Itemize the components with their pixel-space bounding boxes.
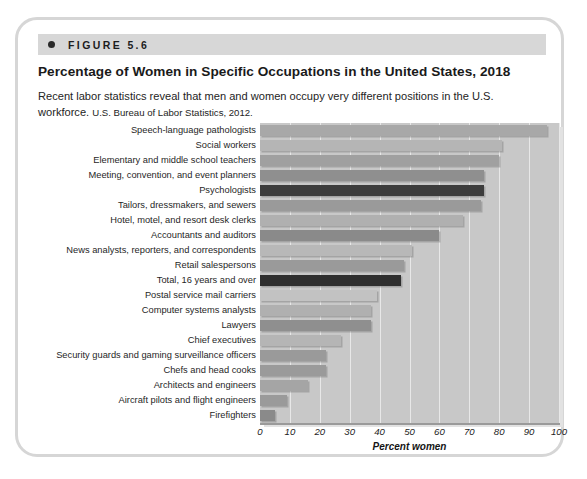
category-label: Architects and engineers xyxy=(154,380,256,391)
bar-row[interactable] xyxy=(260,198,559,213)
category-label: Meeting, convention, and event planners xyxy=(89,170,256,181)
bar-row[interactable] xyxy=(260,333,559,348)
x-axis-line xyxy=(260,423,560,425)
x-tick-label: 30 xyxy=(344,426,355,437)
bar-row[interactable] xyxy=(260,138,559,153)
x-tick-label: 70 xyxy=(464,426,475,437)
bar-row[interactable] xyxy=(260,153,559,168)
category-label: Lawyers xyxy=(221,320,256,331)
figure-caption: Recent labor statistics reveal that men … xyxy=(38,89,538,120)
bar-row[interactable] xyxy=(260,273,559,288)
category-label: Elementary and middle school teachers xyxy=(93,155,256,166)
bar[interactable] xyxy=(260,275,401,286)
bar[interactable] xyxy=(260,260,404,271)
bar-row[interactable] xyxy=(260,123,559,138)
bar-row[interactable] xyxy=(260,258,559,273)
bar[interactable] xyxy=(260,380,308,391)
category-label: Chefs and head cooks xyxy=(163,365,256,376)
category-label: Psychologists xyxy=(199,185,256,196)
x-tick-label: 90 xyxy=(524,426,535,437)
gridline xyxy=(559,123,560,423)
bar[interactable] xyxy=(260,230,439,241)
x-tick-label: 40 xyxy=(374,426,385,437)
bar-row[interactable] xyxy=(260,243,559,258)
bar[interactable] xyxy=(260,365,326,376)
bar[interactable] xyxy=(260,350,326,361)
x-tick-label: 50 xyxy=(404,426,415,437)
x-axis-label: Percent women xyxy=(260,441,559,452)
bar[interactable] xyxy=(260,170,484,181)
category-label: Social workers xyxy=(196,140,256,151)
x-tick-label: 80 xyxy=(494,426,505,437)
bar-row[interactable] xyxy=(260,168,559,183)
bar[interactable] xyxy=(260,395,287,406)
bar-row[interactable] xyxy=(260,288,559,303)
figure-screenshot: FIGURE 5.6 Percentage of Women in Specif… xyxy=(0,0,587,479)
bar-row[interactable] xyxy=(260,348,559,363)
caption-source: U.S. Bureau of Labor Statistics, 2012. xyxy=(92,107,253,118)
figure-number-bar: FIGURE 5.6 xyxy=(38,34,546,55)
bar-row[interactable] xyxy=(260,363,559,378)
category-label: Total, 16 years and over xyxy=(157,275,256,286)
bar[interactable] xyxy=(260,305,371,316)
bar[interactable] xyxy=(260,320,371,331)
x-tick-label: 10 xyxy=(285,426,296,437)
category-label: News analysts, reporters, and correspond… xyxy=(66,245,256,256)
category-label: Chief executives xyxy=(188,335,256,346)
bar-row[interactable] xyxy=(260,378,559,393)
x-tick-label: 20 xyxy=(314,426,325,437)
bar[interactable] xyxy=(260,140,502,151)
figure-number-label: FIGURE 5.6 xyxy=(68,39,149,51)
bar[interactable] xyxy=(260,200,481,211)
figure-card: FIGURE 5.6 Percentage of Women in Specif… xyxy=(15,17,564,457)
bar-chart: Speech-language pathologistsSocial worke… xyxy=(32,123,552,448)
category-label: Accountants and auditors xyxy=(151,230,256,241)
bar[interactable] xyxy=(260,185,484,196)
bar-row[interactable] xyxy=(260,408,559,423)
category-label: Retail salespersons xyxy=(175,260,256,271)
bar[interactable] xyxy=(260,335,341,346)
bar-row[interactable] xyxy=(260,183,559,198)
category-label: Computer systems analysts xyxy=(142,305,256,316)
category-label: Aircraft pilots and flight engineers xyxy=(119,395,256,406)
category-label: Speech-language pathologists xyxy=(131,125,256,136)
category-label: Postal service mail carriers xyxy=(145,290,256,301)
bar[interactable] xyxy=(260,290,377,301)
category-label: Security guards and gaming surveillance … xyxy=(56,350,256,361)
bar[interactable] xyxy=(260,125,547,136)
bar[interactable] xyxy=(260,215,463,226)
figure-title: Percentage of Women in Specific Occupati… xyxy=(38,64,550,79)
plot-area xyxy=(260,123,559,423)
bar-row[interactable] xyxy=(260,213,559,228)
bar[interactable] xyxy=(260,410,275,421)
category-label: Tailors, dressmakers, and sewers xyxy=(118,200,256,211)
x-tick-label: 0 xyxy=(257,426,262,437)
bar-row[interactable] xyxy=(260,318,559,333)
x-tick-label: 60 xyxy=(434,426,445,437)
bar-row[interactable] xyxy=(260,303,559,318)
category-label: Hotel, motel, and resort desk clerks xyxy=(110,215,256,226)
bar-row[interactable] xyxy=(260,228,559,243)
bar[interactable] xyxy=(260,245,412,256)
x-tick-label: 100 xyxy=(551,426,567,437)
bullet-dot-icon xyxy=(48,41,55,48)
category-label: Firefighters xyxy=(210,410,257,421)
bar-row[interactable] xyxy=(260,393,559,408)
bar[interactable] xyxy=(260,155,499,166)
